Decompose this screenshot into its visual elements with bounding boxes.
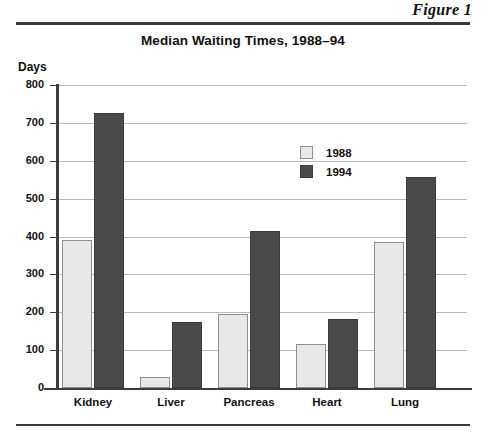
gridline bbox=[58, 85, 467, 86]
legend-item-1988: 1988 bbox=[300, 143, 352, 162]
legend-swatch-1994 bbox=[300, 165, 313, 178]
y-axis-line bbox=[56, 84, 59, 389]
x-axis-line bbox=[44, 388, 472, 390]
chart-legend: 19881994 bbox=[300, 143, 352, 181]
footer-divider bbox=[16, 424, 470, 426]
legend-label-1988: 1988 bbox=[326, 147, 352, 159]
bar-lung-1988 bbox=[374, 242, 404, 388]
y-axis-tick-label: 600 bbox=[10, 154, 44, 166]
legend-item-1994: 1994 bbox=[300, 162, 352, 181]
bar-pancreas-1988 bbox=[218, 314, 248, 388]
y-axis-tick-label: 800 bbox=[10, 78, 44, 90]
y-axis-tick-label: 400 bbox=[10, 230, 44, 242]
bar-chart-plot-area: 8007006005004003002001000 KidneyLiverPan… bbox=[0, 0, 486, 440]
category-label-heart: Heart bbox=[282, 396, 372, 408]
y-axis-tick-label: 700 bbox=[10, 116, 44, 128]
y-axis-tick-label: 300 bbox=[10, 267, 44, 279]
bar-kidney-1988 bbox=[62, 240, 92, 388]
y-axis-tick-label: 100 bbox=[10, 343, 44, 355]
y-axis-tick-label: 500 bbox=[10, 192, 44, 204]
y-axis-tick-label: 0 bbox=[10, 381, 44, 393]
category-label-pancreas: Pancreas bbox=[204, 396, 294, 408]
bar-liver-1994 bbox=[172, 322, 202, 388]
bar-liver-1988 bbox=[140, 377, 170, 388]
y-axis-tick-label: 200 bbox=[10, 305, 44, 317]
bar-kidney-1994 bbox=[94, 113, 124, 388]
bar-heart-1994 bbox=[328, 319, 358, 388]
bar-lung-1994 bbox=[406, 177, 436, 388]
category-label-kidney: Kidney bbox=[48, 396, 138, 408]
bar-pancreas-1994 bbox=[250, 231, 280, 388]
legend-swatch-1988 bbox=[300, 146, 313, 159]
bar-heart-1988 bbox=[296, 344, 326, 388]
category-label-liver: Liver bbox=[126, 396, 216, 408]
category-label-lung: Lung bbox=[360, 396, 450, 408]
legend-label-1994: 1994 bbox=[326, 166, 352, 178]
